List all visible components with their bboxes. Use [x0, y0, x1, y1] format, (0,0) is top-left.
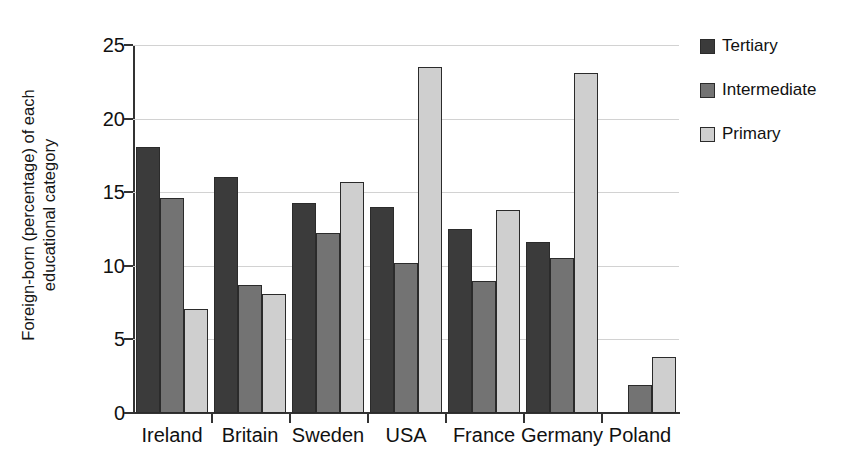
bar-group [370, 45, 442, 413]
bar-france-primary [496, 210, 520, 413]
y-axis-title-line-2: educational category [39, 89, 60, 340]
bar-group [136, 45, 208, 413]
legend-item-intermediate: Intermediate [700, 68, 860, 112]
y-axis-tick-label: 5 [83, 328, 125, 351]
x-axis-tick-mark [211, 414, 213, 423]
bar-group [214, 45, 286, 413]
legend-swatch-icon [700, 83, 715, 98]
bar-poland-intermediate [628, 385, 652, 413]
legend-label: Tertiary [722, 36, 778, 56]
y-axis-title-line-1: Foreign-born (percentage) of each [18, 89, 39, 340]
legend-item-primary: Primary [700, 112, 860, 156]
x-axis-label-ireland: Ireland [141, 424, 202, 447]
x-axis-tick-mark [601, 414, 603, 423]
bar-germany-tertiary [526, 242, 550, 413]
y-axis-tick-mark [124, 338, 133, 340]
x-axis-tick-mark [367, 414, 369, 423]
y-axis-tick-label: 0 [83, 402, 125, 425]
x-axis-label-germany: Germany [521, 424, 603, 447]
bar-group [292, 45, 364, 413]
legend-item-tertiary: Tertiary [700, 24, 860, 68]
bar-france-tertiary [448, 229, 472, 413]
legend-label: Intermediate [722, 80, 817, 100]
legend-label: Primary [722, 124, 781, 144]
x-axis-label-britain: Britain [222, 424, 279, 447]
y-axis-tick-mark [124, 191, 133, 193]
bar-sweden-tertiary [292, 203, 316, 413]
plot-area [133, 45, 679, 413]
bar-ireland-primary [184, 309, 208, 414]
x-axis-label-poland: Poland [609, 424, 671, 447]
bar-ireland-intermediate [160, 198, 184, 413]
y-axis-tick-mark [124, 412, 133, 414]
x-axis-label-sweden: Sweden [292, 424, 364, 447]
bar-poland-primary [652, 357, 676, 413]
legend-swatch-icon [700, 127, 715, 142]
y-axis-tick-mark [124, 44, 133, 46]
x-axis-tick-mark [289, 414, 291, 423]
bar-france-intermediate [472, 281, 496, 413]
bar-usa-primary [418, 67, 442, 413]
x-axis-label-france: France [453, 424, 515, 447]
legend: TertiaryIntermediatePrimary [700, 24, 860, 156]
y-axis-tick-mark [124, 118, 133, 120]
y-axis-tick-label: 20 [83, 107, 125, 130]
bar-germany-primary [574, 73, 598, 413]
bar-germany-intermediate [550, 258, 574, 413]
bar-britain-tertiary [214, 177, 238, 413]
bar-usa-tertiary [370, 207, 394, 413]
y-axis-tick-labels: 0510152025 [78, 0, 125, 473]
y-axis-title: Foreign-born (percentage) of each educat… [0, 0, 78, 430]
x-axis-tick-mark [445, 414, 447, 423]
bar-sweden-primary [340, 182, 364, 413]
x-axis-tick-mark [523, 414, 525, 423]
y-axis-tick-label: 10 [83, 254, 125, 277]
bar-chart-figure: Foreign-born (percentage) of each educat… [0, 0, 866, 473]
x-axis-label-usa: USA [385, 424, 426, 447]
bar-group [448, 45, 520, 413]
bar-britain-primary [262, 294, 286, 413]
bar-usa-intermediate [394, 263, 418, 413]
bar-britain-intermediate [238, 285, 262, 413]
bar-sweden-intermediate [316, 233, 340, 413]
legend-swatch-icon [700, 39, 715, 54]
bar-group [604, 45, 676, 413]
bar-ireland-tertiary [136, 147, 160, 413]
y-axis-tick-label: 25 [83, 34, 125, 57]
y-axis-tick-mark [124, 265, 133, 267]
y-axis-tick-label: 15 [83, 181, 125, 204]
bar-group [526, 45, 598, 413]
